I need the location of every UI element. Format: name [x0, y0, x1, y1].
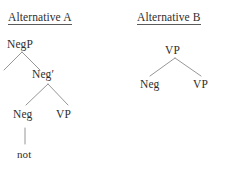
node-a-negp: NegP	[7, 38, 33, 50]
panel-title-alternative-a-text: Alternative A	[8, 11, 72, 25]
branch-negp-to-specifier	[4, 52, 22, 70]
node-b-vp: VP	[193, 78, 208, 90]
branch-negbar-to-vp	[48, 84, 68, 105]
panel-title-alternative-b-text: Alternative B	[137, 11, 201, 25]
panel-title-alternative-b: Alternative B	[137, 11, 201, 25]
branch-negbar-to-neg	[26, 84, 48, 105]
node-a-vp: VP	[56, 108, 71, 120]
branch-vp-to-vp	[175, 58, 201, 76]
syntax-tree-figure: Alternative A NegP Neg′ Neg VP not Alter…	[0, 0, 226, 169]
node-b-neg: Neg	[140, 78, 159, 90]
node-b-vp-root: VP	[165, 44, 180, 56]
node-a-neg-bar: Neg′	[32, 68, 54, 80]
node-a-neg: Neg	[13, 108, 32, 120]
node-a-terminal-not: not	[17, 148, 31, 160]
panel-title-alternative-a: Alternative A	[8, 11, 72, 25]
branch-vp-to-neg	[150, 58, 175, 76]
